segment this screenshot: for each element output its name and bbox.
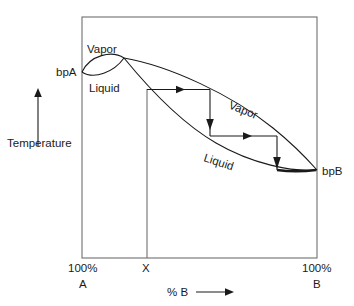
tie-line-1 bbox=[147, 86, 210, 94]
vapor-main-label: Vapor bbox=[227, 99, 259, 121]
liquid-curve-bold-segment bbox=[277, 170, 316, 171]
left-lens-vapor-arc bbox=[82, 54, 124, 72]
tie-line-2 bbox=[210, 132, 277, 140]
x-axis-title-arrow bbox=[196, 288, 234, 296]
tie-line-2-arrowhead bbox=[243, 132, 252, 140]
x-axis-marker-x: X bbox=[142, 262, 150, 274]
x-axis-left-percent: 100% bbox=[68, 262, 97, 274]
liquid-main-label: Liquid bbox=[202, 151, 235, 172]
condensation-drop-1 bbox=[206, 90, 214, 137]
vapor-top-label: Vapor bbox=[87, 43, 117, 55]
tie-line-1-arrowhead bbox=[176, 86, 185, 94]
bpa-label: bpA bbox=[56, 66, 77, 78]
x-axis-left-component: A bbox=[79, 278, 87, 290]
condensation-drop-2 bbox=[273, 136, 281, 170]
x-axis-title: % B bbox=[167, 286, 188, 298]
liquid-top-label: Liquid bbox=[89, 82, 120, 94]
phase-diagram-svg: Vapor Liquid Vapor Liquid bpA bpB Temper… bbox=[0, 0, 354, 306]
phase-diagram-figure: Vapor Liquid Vapor Liquid bpA bpB Temper… bbox=[0, 0, 354, 306]
temperature-axis-label: Temperature bbox=[7, 137, 72, 149]
plot-frame bbox=[82, 17, 317, 258]
vapor-curve bbox=[124, 58, 317, 170]
x-axis-right-component: B bbox=[313, 278, 321, 290]
x-axis-right-percent: 100% bbox=[302, 262, 331, 274]
left-lens-liquid-arc bbox=[82, 58, 124, 75]
bpb-label: bpB bbox=[322, 165, 343, 177]
liquid-curve bbox=[124, 58, 317, 170]
condensation-drop-1-arrowhead bbox=[206, 119, 214, 130]
